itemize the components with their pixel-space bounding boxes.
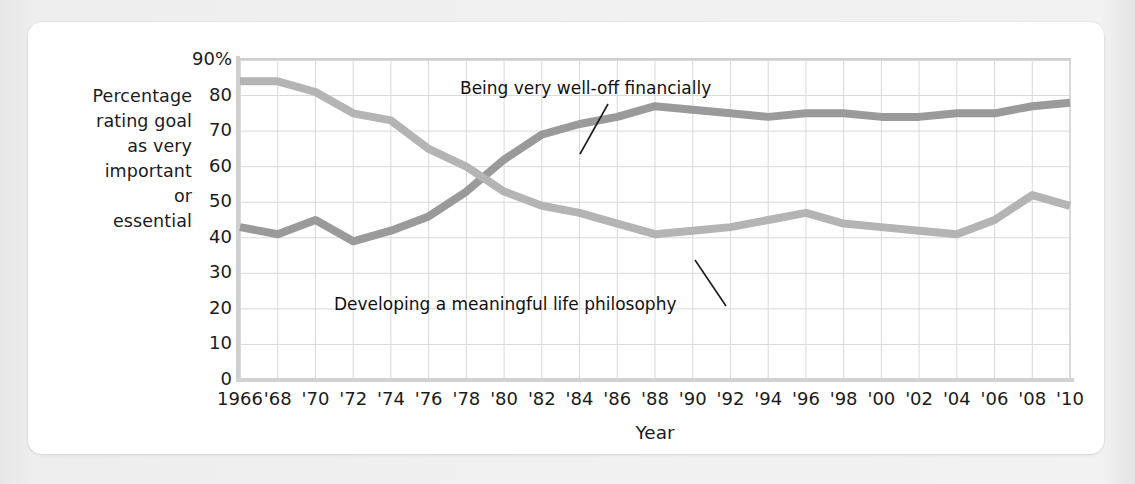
y-tick-40: 40	[172, 225, 232, 246]
x-tick-1978: '78	[452, 388, 480, 409]
x-tick-1976: '76	[415, 388, 443, 409]
x-tick-1990: '90	[679, 388, 707, 409]
line-chart-figure: Percentage rating goal as very important…	[28, 22, 1104, 454]
y-tick-80: 80	[172, 83, 232, 104]
x-tick-1984: '84	[566, 388, 594, 409]
x-tick-2006: '06	[981, 388, 1009, 409]
x-tick-2008: '08	[1018, 388, 1046, 409]
x-tick-1982: '82	[528, 388, 556, 409]
x-axis-line	[236, 378, 1074, 382]
x-tick-1966: 1966	[217, 388, 263, 409]
x-tick-1972: '72	[339, 388, 367, 409]
x-tick-1980: '80	[490, 388, 518, 409]
y-tick-30: 30	[172, 261, 232, 282]
y-tick-20: 20	[172, 296, 232, 317]
x-tick-1994: '94	[754, 388, 782, 409]
plot-area	[240, 58, 1071, 380]
y-tick-10: 10	[172, 332, 232, 353]
y-tick-0: 0	[172, 368, 232, 389]
x-tick-1992: '92	[717, 388, 745, 409]
y-tick-70: 70	[172, 119, 232, 140]
x-tick-1998: '98	[830, 388, 858, 409]
x-tick-2002: '02	[905, 388, 933, 409]
x-tick-1988: '88	[641, 388, 669, 409]
x-tick-1974: '74	[377, 388, 405, 409]
leader-line-well-off	[580, 104, 608, 154]
y-tick-90: 90%	[172, 48, 232, 69]
x-tick-2010: '10	[1056, 388, 1084, 409]
data-series-lines	[240, 60, 1070, 380]
x-tick-2000: '00	[867, 388, 895, 409]
x-tick-1996: '96	[792, 388, 820, 409]
annotation-well-off-financially: Being very well-off financially	[460, 78, 711, 98]
x-tick-1968: '68	[264, 388, 292, 409]
annotation-life-philosophy: Developing a meaningful life philosophy	[334, 294, 676, 314]
x-axis-title: Year	[240, 422, 1070, 443]
x-tick-2004: '04	[943, 388, 971, 409]
series-line-0	[240, 103, 1070, 242]
y-tick-60: 60	[172, 154, 232, 175]
x-axis-tick-labels: 1966'68'70'72'74'76'78'80'82'84'86'88'90…	[240, 388, 1070, 418]
y-tick-50: 50	[172, 190, 232, 211]
x-tick-1970: '70	[302, 388, 330, 409]
y-axis-tick-labels: 0102030405060708090%	[168, 58, 232, 378]
leader-line-life-philosophy	[695, 260, 726, 306]
x-tick-1986: '86	[603, 388, 631, 409]
